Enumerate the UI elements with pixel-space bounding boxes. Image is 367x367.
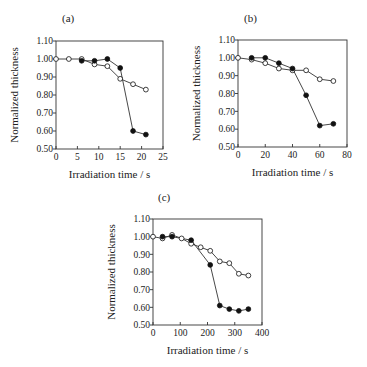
y-tick-label: 0.80: [36, 90, 53, 100]
filled-circle-marker: [304, 93, 309, 98]
y-tick-label: 0.90: [218, 71, 235, 81]
open-circle-marker: [198, 245, 203, 250]
y-tick-label: 0.60: [133, 303, 150, 313]
x-tick-label: 300: [228, 328, 243, 338]
open-circle-marker: [151, 234, 156, 239]
filled-circle-marker: [79, 58, 84, 63]
open-circle-marker: [236, 271, 241, 276]
filled-circle-marker: [276, 61, 281, 66]
x-axis-title: Irradiation time / s: [69, 168, 151, 180]
open-circle-marker: [118, 76, 123, 81]
y-axis-title: Normalized thickness: [105, 224, 117, 320]
filled-circle-marker: [143, 132, 148, 137]
y-tick-label: 0.50: [133, 320, 150, 330]
chart-panel-a: (a)0.500.600.700.800.901.001.10051015202…: [8, 12, 168, 180]
open-circle-marker: [105, 64, 110, 69]
open-circle-marker: [217, 259, 222, 264]
open-circle-marker: [131, 82, 136, 87]
open-circle-marker: [331, 79, 336, 84]
y-tick-label: 0.60: [36, 126, 53, 136]
y-tick-label: 0.70: [36, 108, 53, 118]
y-tick-label: 1.00: [133, 232, 150, 242]
y-tick-label: 0.60: [218, 124, 235, 134]
y-tick-label: 0.90: [36, 72, 53, 82]
y-tick-label: 0.70: [133, 285, 150, 295]
open-circle-marker: [304, 68, 309, 73]
x-tick-label: 100: [173, 328, 188, 338]
open-circle-marker: [54, 57, 59, 62]
open-circle-marker: [317, 77, 322, 82]
open-circle-marker: [227, 261, 232, 266]
x-tick-label: 10: [94, 152, 104, 162]
series-line: [82, 59, 146, 135]
y-tick-label: 0.50: [218, 142, 235, 152]
filled-circle-marker: [249, 55, 254, 60]
chart-panel-b: (b)0.500.600.700.800.901.001.10020406080…: [190, 12, 352, 178]
x-tick-label: 25: [158, 152, 168, 162]
y-tick-label: 0.90: [133, 250, 150, 260]
x-tick-label: 5: [75, 152, 80, 162]
open-circle-marker: [276, 66, 281, 71]
filled-circle-marker: [170, 234, 175, 239]
panel-label: (c): [158, 191, 171, 204]
open-circle-marker: [66, 57, 71, 62]
x-tick-label: 40: [288, 150, 298, 160]
filled-circle-marker: [208, 263, 213, 268]
x-tick-label: 80: [342, 150, 352, 160]
filled-circle-marker: [189, 238, 194, 243]
open-circle-marker: [236, 55, 241, 60]
filled-circle-marker: [131, 129, 136, 134]
filled-circle-marker: [92, 58, 97, 63]
open-circle-marker: [143, 87, 148, 92]
y-axis-title: Normalized thickness: [190, 46, 202, 142]
x-axis-title: Irradiation time / s: [167, 344, 249, 356]
y-axis-title: Normalized thickness: [8, 47, 20, 143]
y-tick-label: 1.00: [36, 54, 53, 64]
filled-circle-marker: [105, 57, 110, 62]
plot-frame: [238, 40, 347, 147]
filled-circle-marker: [317, 123, 322, 128]
x-tick-label: 20: [137, 152, 147, 162]
open-circle-marker: [246, 273, 251, 278]
open-circle-marker: [208, 248, 213, 253]
y-tick-label: 1.10: [133, 214, 150, 224]
series-line: [163, 237, 249, 311]
open-circle-marker: [179, 236, 184, 241]
series-line: [153, 235, 248, 276]
filled-circle-marker: [236, 308, 241, 313]
filled-circle-marker: [118, 66, 123, 71]
filled-circle-marker: [263, 55, 268, 60]
x-tick-label: 0: [151, 328, 156, 338]
y-tick-label: 1.10: [36, 36, 53, 46]
panel-label: (b): [244, 12, 257, 25]
x-tick-label: 15: [115, 152, 125, 162]
x-tick-label: 0: [236, 150, 241, 160]
y-tick-label: 1.10: [218, 35, 235, 45]
x-tick-label: 60: [315, 150, 325, 160]
filled-circle-marker: [160, 234, 165, 239]
filled-circle-marker: [217, 303, 222, 308]
x-tick-label: 400: [255, 328, 270, 338]
y-tick-label: 1.00: [218, 53, 235, 63]
y-tick-label: 0.50: [36, 144, 53, 154]
filled-circle-marker: [246, 307, 251, 312]
filled-circle-marker: [227, 307, 232, 312]
y-tick-label: 0.70: [218, 107, 235, 117]
panel-label: (a): [62, 12, 75, 25]
y-tick-label: 0.80: [133, 267, 150, 277]
y-tick-label: 0.80: [218, 89, 235, 99]
x-tick-label: 20: [261, 150, 271, 160]
figure-canvas: (a)0.500.600.700.800.901.001.10051015202…: [0, 0, 367, 367]
x-tick-label: 0: [54, 152, 59, 162]
chart-panel-c: (c)0.500.600.700.800.901.001.10010020030…: [105, 191, 269, 356]
filled-circle-marker: [331, 121, 336, 126]
x-tick-label: 200: [200, 328, 215, 338]
x-axis-title: Irradiation time / s: [252, 166, 334, 178]
filled-circle-marker: [290, 66, 295, 71]
open-circle-marker: [263, 61, 268, 66]
